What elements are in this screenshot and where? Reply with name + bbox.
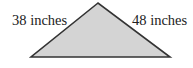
triangle-diagram: 38 inches 48 inches bbox=[0, 0, 193, 68]
left-side-label: 38 inches bbox=[12, 12, 68, 28]
right-side-label: 48 inches bbox=[132, 12, 188, 28]
